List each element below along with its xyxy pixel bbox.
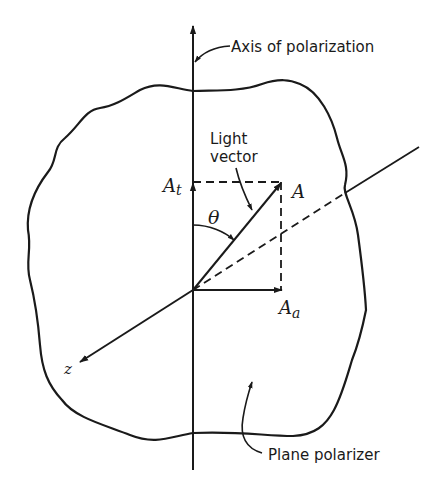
plane-polarizer-label: Plane polarizer [268,446,380,464]
theta-label: θ [208,206,220,228]
polarizer-outline [28,80,366,440]
z-axis-arrow [80,290,193,362]
vector-a-label: A [290,181,305,202]
polarizer-label-leader [242,382,262,453]
z-axis-label: z [63,360,72,378]
diagram-svg: Axis of polarization Light vector Plane … [0,0,442,492]
light-vector-leader [236,168,252,210]
a-t-subscript: t [176,182,182,198]
propagation-line-solid [345,147,419,193]
axis-of-polarization-label: Axis of polarization [231,38,374,56]
light-vector-arrow [193,183,281,290]
a-a-label: Aa [277,297,300,321]
light-vector-label-line2: vector [210,148,258,166]
light-vector-label-line1: Light [210,130,248,148]
a-a-subscript: a [292,305,300,321]
a-a-base: A [277,297,292,318]
a-t-label: At [161,175,182,198]
polarizer-diagram: Axis of polarization Light vector Plane … [0,0,442,492]
a-t-base: A [161,175,176,196]
axis-label-leader [195,46,230,62]
